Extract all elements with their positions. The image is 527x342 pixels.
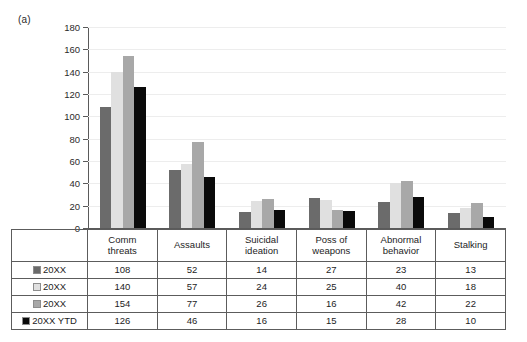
y-tick-label: 60: [38, 156, 80, 167]
table-column-header-line: Stalking: [436, 240, 505, 251]
bar: [204, 177, 216, 228]
table-column-header-line: Comm: [88, 235, 157, 246]
panel-label: (a): [18, 14, 31, 25]
table-cell: 18: [436, 279, 506, 296]
legend-label: 20XX: [43, 299, 66, 310]
table-row: 20XX1405724254018: [12, 279, 506, 296]
bar: [123, 56, 135, 228]
bar: [251, 201, 263, 228]
bar: [332, 210, 344, 228]
bar-group: [436, 27, 506, 228]
table-cell: 14: [227, 262, 297, 279]
table-cell: 24: [227, 279, 297, 296]
legend-label: 20XX YTD: [32, 316, 77, 327]
legend-swatch-icon: [33, 283, 41, 291]
bar: [378, 202, 390, 228]
data-table: CommthreatsAssaultsSuicidalideationPoss …: [11, 229, 506, 330]
table-cell: 46: [157, 313, 227, 330]
bar: [192, 142, 204, 228]
bar: [274, 210, 286, 228]
table-cell: 57: [157, 279, 227, 296]
table-column-header: Suicidalideation: [227, 230, 297, 262]
bar: [448, 213, 460, 228]
table-column-header-line: ideation: [227, 246, 296, 257]
table-cell: 26: [227, 296, 297, 313]
legend-header-blank: [12, 230, 88, 262]
y-tick-label: 100: [38, 111, 80, 122]
bar-group: [367, 27, 437, 228]
table-cell: 13: [436, 262, 506, 279]
table-column-header-line: Abnormal: [367, 235, 436, 246]
table-cell: 25: [296, 279, 366, 296]
table-cell: 126: [88, 313, 158, 330]
bar: [309, 198, 321, 228]
plot-area: [88, 27, 506, 228]
table-cell: 10: [436, 313, 506, 330]
bar: [100, 107, 112, 228]
table-column-header: Abnormalbehavior: [366, 230, 436, 262]
table-cell: 22: [436, 296, 506, 313]
legend-entry: 20XX YTD: [12, 313, 88, 330]
legend-label: 20XX: [43, 265, 66, 276]
table-cell: 40: [366, 279, 436, 296]
bar-group: [227, 27, 297, 228]
table-body: 20XX108521427231320XX140572425401820XX15…: [12, 262, 506, 330]
table-cell: 16: [296, 296, 366, 313]
table-cell: 108: [88, 262, 158, 279]
legend-swatch-icon: [22, 317, 30, 325]
table-row: 20XX1547726164222: [12, 296, 506, 313]
y-tick-label: 80: [38, 133, 80, 144]
legend-swatch-icon: [33, 300, 41, 308]
table-row: 20XX1085214272313: [12, 262, 506, 279]
bar: [239, 212, 251, 228]
y-tick-label: 120: [38, 89, 80, 100]
table-header-row: CommthreatsAssaultsSuicidalideationPoss …: [12, 230, 506, 262]
table-column-header: Stalking: [436, 230, 506, 262]
table-column-header: Poss ofweapons: [296, 230, 366, 262]
bar: [390, 183, 402, 228]
legend-entry: 20XX: [12, 296, 88, 313]
bar: [413, 197, 425, 228]
bar: [401, 181, 413, 228]
table-column-header-line: Suicidal: [227, 235, 296, 246]
table-cell: 15: [296, 313, 366, 330]
legend-swatch-icon: [33, 266, 41, 274]
bar: [134, 87, 146, 228]
table-column-header-line: threats: [88, 246, 157, 257]
legend-entry: 20XX: [12, 262, 88, 279]
bar: [460, 208, 472, 228]
table-cell: 140: [88, 279, 158, 296]
table-column-header-line: Assaults: [158, 240, 227, 251]
table-cell: 77: [157, 296, 227, 313]
bar: [471, 203, 483, 228]
table-cell: 154: [88, 296, 158, 313]
table-cell: 42: [366, 296, 436, 313]
table-cell: 52: [157, 262, 227, 279]
table-column-header-line: behavior: [367, 246, 436, 257]
bar: [320, 200, 332, 228]
y-axis-tick-labels: 180160140120100806040200: [28, 27, 80, 229]
table-column-header: Assaults: [157, 230, 227, 262]
bar-group: [158, 27, 228, 228]
y-tick-label: 180: [38, 22, 80, 33]
table-cell: 28: [366, 313, 436, 330]
bar: [181, 164, 193, 228]
bar: [169, 170, 181, 228]
table-cell: 27: [296, 262, 366, 279]
legend-entry: 20XX: [12, 279, 88, 296]
bar: [111, 72, 123, 228]
table-cell: 16: [227, 313, 297, 330]
y-tick-label: 160: [38, 44, 80, 55]
bar-group: [297, 27, 367, 228]
bar: [483, 217, 495, 228]
chart-figure: (a) 180160140120100806040200 Commthreats…: [0, 0, 527, 342]
bar: [343, 211, 355, 228]
table-column-header-line: weapons: [297, 246, 366, 257]
legend-label: 20XX: [43, 282, 66, 293]
table-column-header-line: Poss of: [297, 235, 366, 246]
y-tick-label: 140: [38, 66, 80, 77]
data-table-container: CommthreatsAssaultsSuicidalideationPoss …: [11, 229, 506, 330]
table-column-header: Commthreats: [88, 230, 158, 262]
y-tick-label: 40: [38, 178, 80, 189]
bar-group: [88, 27, 158, 228]
